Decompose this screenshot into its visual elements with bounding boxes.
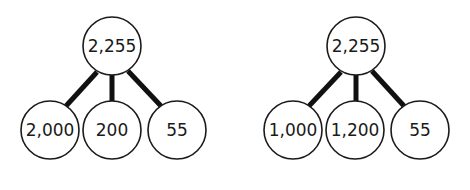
part-value: 1,000 [269, 120, 318, 140]
part-value: 1,200 [331, 120, 380, 140]
part-node: 55 [148, 101, 206, 159]
part-value: 200 [96, 120, 128, 140]
whole-value: 2,255 [332, 36, 381, 56]
bond-edge [66, 72, 97, 106]
bond-edge [309, 72, 341, 106]
number-bond-diagram-2: 2,255 1,000 1,200 55 [264, 17, 449, 159]
number-bond-canvas: 2,255 2,000 200 55 2,255 1,000 1,200 [0, 0, 470, 190]
whole-node: 2,255 [327, 17, 385, 75]
whole-node: 2,255 [83, 17, 141, 75]
part-node: 1,200 [326, 101, 384, 159]
part-node: 1,000 [264, 101, 322, 159]
part-node: 2,000 [21, 101, 79, 159]
part-node: 200 [83, 101, 141, 159]
bond-edge [372, 71, 404, 106]
part-value: 55 [409, 120, 431, 140]
whole-value: 2,255 [88, 36, 137, 56]
part-value: 55 [166, 120, 188, 140]
bond-edge [128, 71, 161, 106]
part-node: 55 [391, 101, 449, 159]
number-bond-diagram-1: 2,255 2,000 200 55 [21, 17, 206, 159]
part-value: 2,000 [26, 120, 75, 140]
